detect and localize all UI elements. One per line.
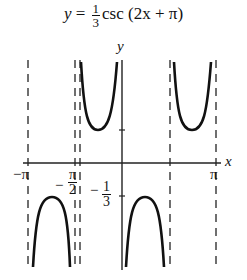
y-axis-label: y [117,38,124,55]
tick-label-neg-pi: −π [13,166,29,183]
curve-branch-3 [126,197,164,267]
tick-label-neg-third: 1 3 [102,180,111,209]
tick-label-neg-third-sign: − [90,182,98,199]
curve-branch-1 [33,197,70,267]
curve-branch-2 [81,62,117,130]
tick-label-pi: π [210,166,218,183]
tick-label-neg-half-pi: π 2 [68,168,77,197]
x-axis-label: x [225,153,232,170]
curve-branch-4 [174,62,211,130]
tick-label-neg-half-pi-sign: − [55,177,63,194]
